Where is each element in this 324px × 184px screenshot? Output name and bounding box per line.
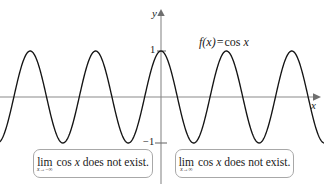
callout-left-limit: lim x→−∞ — [37, 156, 52, 168]
callout-left-variable: x — [75, 156, 80, 168]
callout-right-lim-subscript: x→∞ — [180, 166, 192, 172]
y-tick-label-negative-one: −1 — [143, 137, 154, 148]
callout-left-body: cos x does not exist. — [57, 156, 149, 168]
callout-right-body: cos x does not exist. — [198, 156, 290, 168]
callout-left-content: lim x→−∞ cos x does not exist. — [37, 156, 149, 171]
callout-limit-positive-infinity: lim x→∞ cos x does not exist. — [175, 149, 294, 178]
callout-limit-negative-infinity: lim x→−∞ cos x does not exist. — [33, 149, 153, 178]
callout-right-limit: lim x→∞ — [179, 156, 194, 168]
callout-right-statement: does not exist. — [224, 156, 290, 168]
callout-left-lim-subscript: x→−∞ — [37, 166, 53, 172]
y-axis-arrowhead — [157, 9, 164, 16]
callout-left-sub-target: −∞ — [45, 166, 52, 172]
y-tick-label-one: 1 — [150, 45, 155, 56]
function-label: f(x)=cos x — [199, 36, 249, 48]
function-label-variable: x — [243, 35, 248, 49]
callout-right-variable: x — [216, 156, 221, 168]
callout-left-statement: does not exist. — [83, 156, 149, 168]
function-label-cos: cos — [224, 35, 240, 49]
y-axis-label: y — [152, 8, 157, 19]
function-label-fx: f(x) — [199, 35, 216, 49]
callout-right-sub-target: ∞ — [188, 166, 192, 172]
x-axis-label: x — [311, 100, 316, 111]
callout-right-function: cos — [198, 156, 213, 168]
callout-right-content: lim x→∞ cos x does not exist. — [179, 156, 291, 171]
cosine-limit-figure: y x 1 −1 f(x)=cos x lim x→−∞ cos x does … — [0, 0, 324, 184]
callout-left-function: cos — [57, 156, 72, 168]
